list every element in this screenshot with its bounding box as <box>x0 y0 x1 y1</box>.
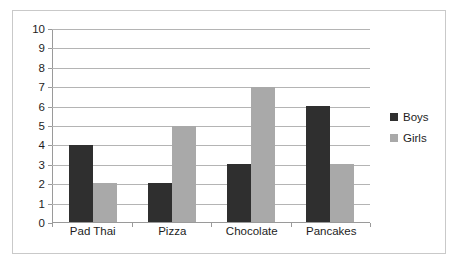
x-axis-labels: Pad ThaiPizzaChocolatePancakes <box>53 225 371 237</box>
x-axis-category-label: Pizza <box>133 225 213 237</box>
y-axis-tick-label: 8 <box>39 62 45 74</box>
bar-group <box>291 29 370 222</box>
bar-group <box>132 29 211 222</box>
y-axis-tick-label: 6 <box>39 101 45 113</box>
y-axis-tick-label: 1 <box>39 198 45 210</box>
x-axis-category-label: Pancakes <box>292 225 372 237</box>
x-axis-category-label: Chocolate <box>212 225 292 237</box>
legend-item-boys[interactable]: Boys <box>390 111 429 123</box>
x-axis-category-label: Pad Thai <box>53 225 133 237</box>
bar-girls <box>93 183 117 222</box>
y-axis-tick-label: 4 <box>39 139 45 151</box>
bar-groups <box>53 29 370 222</box>
y-axis-tick <box>48 204 52 205</box>
bar-boys <box>148 183 172 222</box>
y-axis-tick-label: 7 <box>39 81 45 93</box>
plot-area: 109876543210 <box>52 29 370 223</box>
y-axis-tick <box>48 107 52 108</box>
y-axis-tick-label: 2 <box>39 178 45 190</box>
legend-label: Girls <box>403 132 427 144</box>
y-axis-tick-label: 5 <box>39 120 45 132</box>
bar-group <box>53 29 132 222</box>
bar-girls <box>330 164 354 222</box>
y-axis-tick <box>48 87 52 88</box>
chart-legend: BoysGirls <box>390 111 429 144</box>
y-axis-tick <box>48 68 52 69</box>
y-axis-tick-label: 3 <box>39 159 45 171</box>
y-axis-tick <box>48 126 52 127</box>
legend-swatch-icon <box>390 134 398 142</box>
bar-boys <box>69 145 93 222</box>
y-axis-tick <box>48 184 52 185</box>
legend-item-girls[interactable]: Girls <box>390 132 429 144</box>
bar-boys <box>306 106 330 222</box>
legend-swatch-icon <box>390 113 398 121</box>
y-axis-tick-label: 10 <box>32 23 45 35</box>
legend-label: Boys <box>403 111 429 123</box>
y-axis-tick <box>48 48 52 49</box>
chart-frame: 109876543210 Pad ThaiPizzaChocolatePanca… <box>12 10 446 254</box>
bar-group <box>212 29 291 222</box>
y-axis-tick <box>48 145 52 146</box>
y-axis-tick-label: 0 <box>39 217 45 229</box>
y-axis-tick-label: 9 <box>39 42 45 54</box>
bar-boys <box>227 164 251 222</box>
bar-girls <box>251 87 275 222</box>
y-axis-tick <box>48 165 52 166</box>
bar-girls <box>172 126 196 223</box>
y-axis-tick <box>48 29 52 30</box>
